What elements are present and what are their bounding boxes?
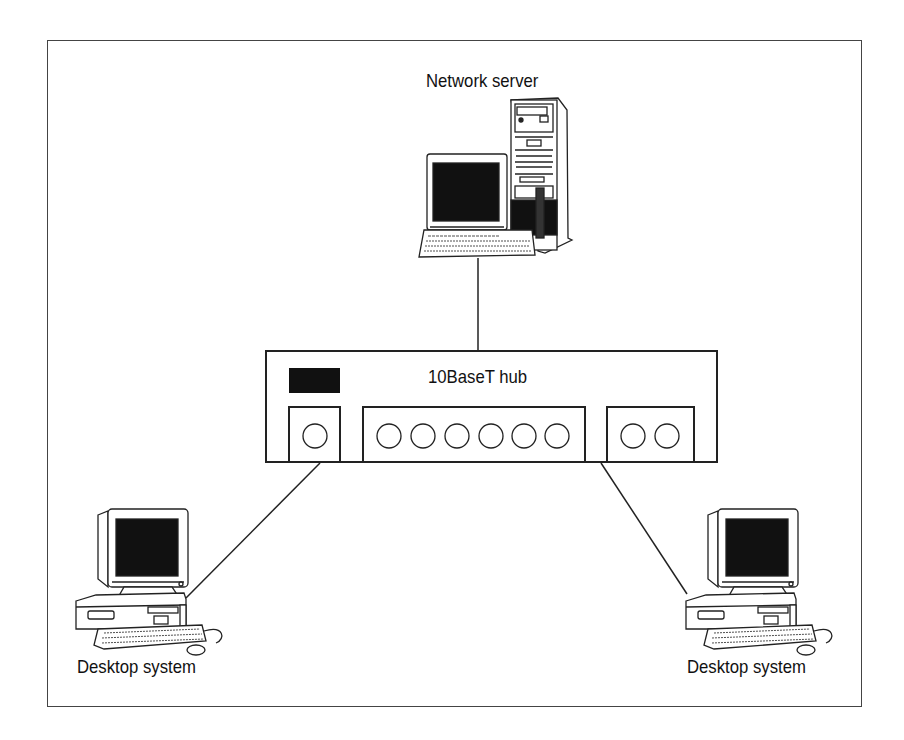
desktop-left-label: Desktop system <box>77 656 196 678</box>
hub-label: 10BaseT hub <box>428 366 527 388</box>
server-icon <box>419 98 572 257</box>
desktop-right-label: Desktop system <box>687 656 806 678</box>
desktop-left-icon <box>76 509 222 655</box>
hub-desktop-left-link <box>186 463 320 598</box>
server-label: Network server <box>426 70 538 92</box>
desktop-right-icon <box>686 509 832 655</box>
hub-desktop-right-link <box>601 463 687 594</box>
